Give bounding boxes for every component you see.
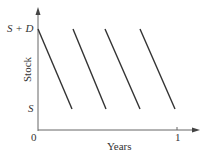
y-tick-label-s-plus-d: S + D — [7, 22, 33, 34]
cycle-line-1 — [38, 29, 72, 109]
stock-series — [38, 29, 175, 109]
cycle-line-4 — [140, 29, 175, 109]
y-tick-label-s: S — [28, 102, 34, 114]
cycle-line-2 — [73, 29, 106, 109]
y-axis-title: Stock — [21, 57, 33, 82]
cycle-line-3 — [105, 29, 140, 109]
x-axis-arrow-icon — [192, 128, 200, 133]
origin-label: 0 — [31, 131, 37, 143]
x-tick-label-1: 1 — [175, 131, 181, 143]
y-axis-arrow-icon — [36, 7, 41, 15]
x-axis-title: Years — [107, 140, 132, 152]
